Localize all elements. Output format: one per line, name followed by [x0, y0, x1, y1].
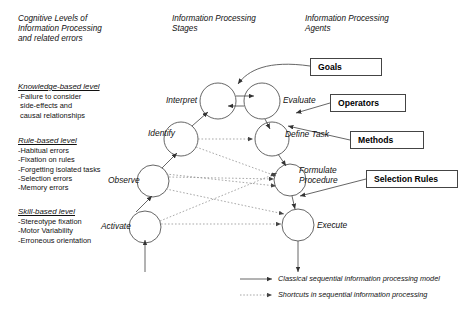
level-title: Knowledge-based level — [18, 82, 100, 91]
node-label-formulate-procedure: Formulate Procedure — [299, 166, 338, 185]
level-knowledge-based: Knowledge-based level -Failure to consid… — [18, 82, 100, 120]
level-skill-based: Skill-based level -Stereotype fixation -… — [18, 207, 91, 245]
level-title: Skill-based level — [18, 207, 91, 216]
agent-box-selection-rules: Selection Rules — [366, 170, 458, 188]
legend-label-classical: Classical sequential information process… — [278, 274, 440, 283]
column-header-agents: Information Processing Agents — [305, 14, 389, 34]
level-rule-based: Rule-based level -Habitual errors -Fixat… — [18, 136, 101, 192]
level-errors: -Habitual errors -Fixation on rules -For… — [18, 146, 101, 192]
node-label-activate: Activate — [101, 222, 131, 232]
column-header-cognitive: Cognitive Levels of Information Processi… — [18, 14, 102, 44]
column-header-stages: Information Processing Stages — [172, 14, 256, 34]
legend-label-shortcuts: Shortcuts in sequential information proc… — [278, 290, 427, 299]
node-label-identify: Identify — [148, 129, 175, 139]
level-errors: -Failure to consider side-effects and ca… — [18, 92, 100, 120]
level-title: Rule-based level — [18, 136, 101, 145]
agent-box-operators: Operators — [330, 94, 406, 112]
agent-box-goals: Goals — [310, 58, 382, 76]
agent-box-methods: Methods — [350, 131, 424, 149]
node-label-define-task: Define Task — [285, 130, 329, 140]
node-label-observe: Observe — [108, 176, 140, 186]
level-errors: -Stereotype fixation -Motor Variability … — [18, 217, 91, 245]
diagram-canvas: Cognitive Levels of Information Processi… — [0, 0, 464, 317]
node-label-evaluate: Evaluate — [283, 96, 316, 106]
node-label-interpret: Interpret — [166, 96, 197, 106]
node-label-execute: Execute — [317, 221, 347, 231]
